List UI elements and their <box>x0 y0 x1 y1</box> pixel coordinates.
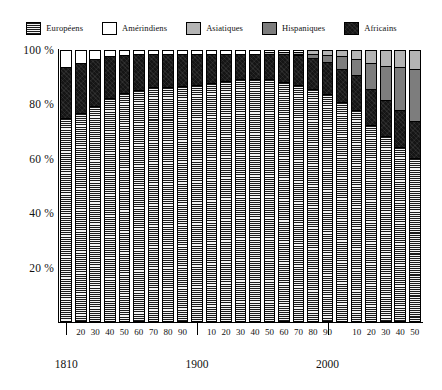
legend-swatch-hispaniques-icon <box>262 22 277 35</box>
bar-segment-1870-africains <box>149 54 159 88</box>
bar-segment-2040-hispaniques <box>395 67 405 110</box>
x-major-label-2000: 2000 <box>316 358 339 370</box>
bar-segment-2000-africains <box>337 69 347 103</box>
bar-1850 <box>119 50 131 322</box>
x-tick-label-1910: 10 <box>207 327 216 337</box>
bar-segment-1820-africains <box>76 63 86 113</box>
x-tick-label-1820: 20 <box>76 327 85 337</box>
y-axis-labels: 20 %40 %60 %80 %100 % <box>0 0 54 390</box>
bar-segment-1840-europeens <box>105 98 115 321</box>
bar-2020 <box>365 50 377 322</box>
bar-1910 <box>206 50 218 322</box>
bar-segment-1820-amerindiens <box>76 51 86 63</box>
bar-1820 <box>75 50 87 322</box>
bar-segment-1970-europeens <box>294 85 304 321</box>
bar-segment-1950-africains <box>265 54 275 80</box>
x-major-label-1900: 1900 <box>185 358 208 370</box>
bar-1990 <box>322 50 334 322</box>
x-tick-label-1840: 40 <box>105 327 114 337</box>
bar-segment-2050-asiatiques <box>410 51 420 69</box>
bar-segment-1830-europeens <box>90 106 100 321</box>
bar-segment-2030-europeens <box>381 136 391 321</box>
x-axis-line <box>58 322 423 323</box>
bar-segment-2050-africains <box>410 121 420 157</box>
bar-segment-1980-africains <box>308 58 318 89</box>
bar-1960 <box>278 50 290 322</box>
x-tick-label-1920: 20 <box>221 327 230 337</box>
bar-segment-2020-africains <box>366 89 376 125</box>
plot-area <box>59 50 422 322</box>
stacked-bar-chart: EuropéensAmérindiensAsiatiquesHispanique… <box>0 0 442 390</box>
bar-segment-1820-europeens <box>76 113 86 321</box>
x-tick-label-1860: 60 <box>134 327 143 337</box>
bar-segment-2000-europeens <box>337 102 347 321</box>
bar-1920 <box>220 50 232 322</box>
bar-segment-2010-asiatiques <box>352 51 362 59</box>
bar-2000 <box>336 50 348 322</box>
bar-segment-2050-hispaniques <box>410 69 420 122</box>
bar-segment-1850-africains <box>120 55 130 93</box>
x-tick-label-1880: 80 <box>163 327 172 337</box>
legend-item-africains: Africains <box>344 22 407 35</box>
bar-segment-1930-europeens <box>236 79 246 321</box>
bar-1870 <box>148 50 160 322</box>
bar-segment-1880-europeens <box>163 87 173 321</box>
legend-label-amerindiens: Amérindiens <box>122 23 167 33</box>
bar-1880 <box>162 50 174 322</box>
y-tick-label-20: 20 % <box>2 262 54 274</box>
legend-item-amerindiens: Amérindiens <box>102 22 177 35</box>
bar-segment-1950-europeens <box>265 79 275 321</box>
bar-segment-1920-africains <box>221 54 231 81</box>
legend-item-asiatiques: Asiatiques <box>186 22 253 35</box>
y-tick-label-40: 40 % <box>2 207 54 219</box>
bar-segment-2030-asiatiques <box>381 51 391 66</box>
bar-segment-1910-europeens <box>207 83 217 321</box>
bar-segment-1910-africains <box>207 54 217 84</box>
bar-1950 <box>264 50 276 322</box>
x-tick-label-1940: 40 <box>251 327 260 337</box>
legend-swatch-amerindiens-icon <box>102 22 117 35</box>
x-tick-label-1830: 30 <box>91 327 100 337</box>
bar-segment-1940-europeens <box>250 79 260 321</box>
legend-swatch-africains-icon <box>344 22 359 35</box>
bar-1970 <box>293 50 305 322</box>
bar-2050 <box>409 50 421 322</box>
bar-segment-1980-europeens <box>308 89 318 321</box>
legend-label-hispaniques: Hispaniques <box>282 23 325 33</box>
bar-segment-2040-africains <box>395 110 405 146</box>
bar-segment-2010-europeens <box>352 110 362 321</box>
bar-segment-2050-europeens <box>410 158 420 321</box>
bar-1930 <box>235 50 247 322</box>
bar-1980 <box>307 50 319 322</box>
bar-segment-1890-africains <box>178 54 188 86</box>
bar-1860 <box>133 50 145 322</box>
bar-segment-1870-europeens <box>149 87 159 321</box>
x-tick-label-1960: 60 <box>280 327 289 337</box>
x-tick-label-2010: 10 <box>352 327 361 337</box>
bar-segment-1860-africains <box>134 54 144 90</box>
x-tick-label-1970: 70 <box>294 327 303 337</box>
bar-segment-1990-africains <box>323 62 333 94</box>
x-tick-label-2050: 50 <box>410 327 419 337</box>
x-tick-label-1980: 80 <box>309 327 318 337</box>
bar-segment-1900-europeens <box>192 85 202 321</box>
bar-segment-1960-europeens <box>279 82 289 321</box>
bar-segment-2030-africains <box>381 100 391 136</box>
x-major-label-1810: 1810 <box>55 358 78 370</box>
x-tick-label-1930: 30 <box>236 327 245 337</box>
bar-segment-1960-africains <box>279 54 289 82</box>
chart-legend: EuropéensAmérindiensAsiatiquesHispanique… <box>0 18 442 38</box>
bar-1890 <box>177 50 189 322</box>
legend-label-asiatiques: Asiatiques <box>206 23 243 33</box>
bar-segment-1830-amerindiens <box>90 51 100 59</box>
x-tick-label-1890: 90 <box>178 327 187 337</box>
bar-2010 <box>351 50 363 322</box>
bar-segment-2030-hispaniques <box>381 66 391 100</box>
legend-label-africains: Africains <box>364 23 397 33</box>
bar-segment-1900-africains <box>192 54 202 85</box>
bar-segment-2020-europeens <box>366 125 376 321</box>
bar-1840 <box>104 50 116 322</box>
bar-segment-1940-africains <box>250 54 260 80</box>
x-major-tick-2000 <box>328 322 329 335</box>
x-tick-label-1950: 50 <box>265 327 274 337</box>
